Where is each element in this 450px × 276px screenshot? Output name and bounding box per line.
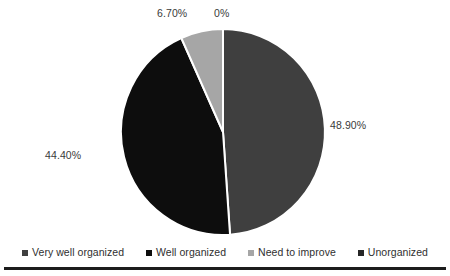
legend-swatch-icon <box>22 250 28 256</box>
legend-item-label: Unorganized <box>368 247 428 259</box>
pie-chart-figure: 6.70% 0% 48.90% 44.40% Very well organiz… <box>0 0 450 276</box>
legend-swatch-icon <box>248 250 254 256</box>
pie-slice-group <box>121 29 325 235</box>
pie-slice[interactable] <box>223 29 325 235</box>
legend-swatch-icon <box>146 250 152 256</box>
pie-svg <box>118 26 328 238</box>
legend-item-very-well-organized[interactable]: Very well organized <box>22 247 124 259</box>
legend-item-label: Need to improve <box>258 247 336 259</box>
data-label-very-well-organized: 48.90% <box>330 120 366 132</box>
data-label-need-to-improve: 6.70% <box>157 8 187 20</box>
legend-item-label: Well organized <box>156 247 226 259</box>
bottom-divider <box>4 267 446 270</box>
legend-swatch-icon <box>358 250 364 256</box>
legend-item-need-to-improve[interactable]: Need to improve <box>248 247 336 259</box>
data-label-unorganized: 0% <box>214 8 229 20</box>
legend-item-unorganized[interactable]: Unorganized <box>358 247 428 259</box>
pie-plot-area: 6.70% 0% 48.90% 44.40% <box>0 0 450 240</box>
data-label-well-organized: 44.40% <box>45 150 81 162</box>
legend-item-label: Very well organized <box>32 247 124 259</box>
legend-item-well-organized[interactable]: Well organized <box>146 247 226 259</box>
chart-legend: Very well organized Well organized Need … <box>0 243 450 263</box>
